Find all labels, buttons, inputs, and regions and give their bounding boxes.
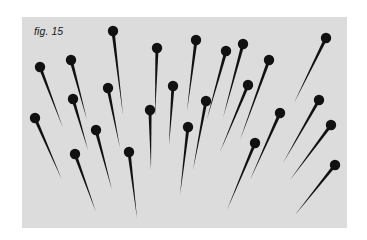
pin <box>294 33 331 103</box>
pins-illustration <box>0 0 367 240</box>
pin-head <box>91 125 101 135</box>
pin-shaft <box>94 130 112 190</box>
pin-shaft <box>34 117 62 180</box>
pin-head <box>330 160 340 170</box>
pin-head <box>168 81 178 91</box>
pin-shaft <box>283 99 320 163</box>
pin-head <box>124 147 134 157</box>
pin-head <box>35 62 45 72</box>
pin-head <box>250 138 260 148</box>
pin <box>193 96 211 170</box>
pin-head <box>191 35 201 45</box>
pin <box>240 55 274 140</box>
pin-head <box>201 96 211 106</box>
pin-head <box>221 46 231 56</box>
pin-shaft <box>127 152 137 218</box>
pin <box>295 160 340 215</box>
pin-shaft <box>73 153 96 212</box>
pin-head <box>152 43 162 53</box>
pin <box>103 83 120 148</box>
pin-head <box>70 149 80 159</box>
pin-head <box>66 55 76 65</box>
pin <box>30 113 62 180</box>
pin-head <box>145 105 155 115</box>
pin <box>207 46 231 119</box>
pin-shaft <box>207 51 228 119</box>
pin-head <box>103 83 113 93</box>
pin-head <box>243 80 253 90</box>
pin-head <box>321 33 331 43</box>
pin <box>124 147 137 218</box>
pin <box>227 138 260 210</box>
pin-shaft <box>294 37 327 103</box>
pin-shaft <box>295 164 336 215</box>
pin <box>68 94 88 150</box>
pin <box>91 125 112 190</box>
pin-shaft <box>169 86 175 145</box>
pin-shaft <box>39 66 63 128</box>
pin-shaft <box>71 99 88 150</box>
pin-shaft <box>187 40 198 111</box>
pin-shaft <box>148 110 151 170</box>
pin-shaft <box>240 59 271 140</box>
pin <box>220 80 253 152</box>
pin-head <box>264 55 274 65</box>
pin-shaft <box>220 84 249 152</box>
pin-shaft <box>180 127 190 195</box>
pin-head <box>108 26 118 36</box>
pin <box>145 105 155 170</box>
pin-shaft <box>106 88 120 148</box>
pin-head <box>275 108 285 118</box>
pin-head <box>68 94 78 104</box>
pin <box>168 81 178 145</box>
pin-head <box>238 39 248 49</box>
pin-shaft <box>155 48 159 116</box>
pin <box>70 149 96 212</box>
pin-shaft <box>69 60 87 120</box>
pin-shaft <box>290 124 332 180</box>
pin <box>152 43 162 116</box>
pin <box>283 95 324 163</box>
pin-shaft <box>111 31 123 115</box>
pin <box>187 35 201 111</box>
pin <box>180 122 193 195</box>
pin-head <box>30 113 40 123</box>
pin-head <box>183 122 193 132</box>
pin-head <box>326 120 336 130</box>
pin-head <box>314 95 324 105</box>
pin-shaft <box>193 101 208 170</box>
pin-shaft <box>227 142 256 210</box>
